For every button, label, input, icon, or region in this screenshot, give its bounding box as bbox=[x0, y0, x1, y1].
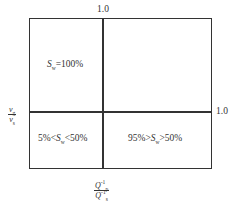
x-den-sup: -1 bbox=[101, 189, 106, 195]
region-bottom-left-label: 5%<Sw<50% bbox=[38, 133, 88, 143]
region-bottom-right-label: 95%>Sw>50% bbox=[128, 133, 182, 143]
top-tick-label: 1.0 bbox=[97, 4, 109, 14]
region-suffix: <50% bbox=[65, 133, 88, 143]
region-suffix: >50% bbox=[160, 133, 183, 143]
x-axis-label: Q-1p Q-1s bbox=[94, 174, 109, 200]
y-den-sub: s bbox=[13, 120, 15, 126]
region-suffix: =100% bbox=[56, 59, 84, 69]
region-prefix: 5%< bbox=[38, 133, 56, 143]
vertical-divider bbox=[102, 18, 104, 169]
region-top-left-label: Sw=100% bbox=[47, 59, 83, 69]
y-axis-label: vg vs bbox=[8, 98, 16, 124]
x-num-sup: -1 bbox=[101, 179, 106, 185]
x-den-sub: s bbox=[106, 196, 108, 202]
horizontal-divider bbox=[29, 111, 212, 113]
quadrant-box bbox=[29, 18, 212, 169]
right-tick-label: 1.0 bbox=[216, 106, 228, 116]
region-prefix: 95%> bbox=[128, 133, 151, 143]
